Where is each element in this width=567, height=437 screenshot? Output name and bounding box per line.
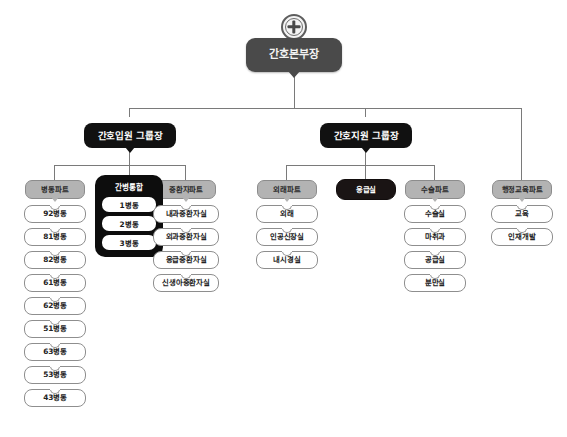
list-item-label: 51병동 xyxy=(43,325,67,333)
node-tail xyxy=(125,147,135,153)
list-item[interactable]: 마취과 xyxy=(404,228,466,246)
node-root-nursing-director[interactable]: 간호본부장 xyxy=(246,38,342,72)
list-item[interactable]: 분만실 xyxy=(404,274,466,292)
list-item[interactable]: 내시경실 xyxy=(256,251,318,269)
list-item-label: 62병동 xyxy=(43,302,67,310)
node-part-surgery-label: 수술파트 xyxy=(421,186,448,194)
list-item-label: 81병동 xyxy=(43,233,67,241)
list-item-label: 수술실 xyxy=(425,210,445,218)
list-item-label: 분만실 xyxy=(425,279,445,287)
list-item-label: 82병동 xyxy=(43,256,67,264)
node-part-integrated-care-label: 간병통합 xyxy=(115,181,142,192)
list-item-label: 응급중환자실 xyxy=(166,256,207,264)
node-tail xyxy=(518,197,526,202)
node-part-admin-education-label: 행정교육파트 xyxy=(502,186,543,194)
node-part-surgery[interactable]: 수술파트 xyxy=(405,180,465,199)
list-item[interactable]: 92병동 xyxy=(24,205,86,223)
list-item[interactable]: 내과중환자실 xyxy=(153,205,219,223)
node-group-support-label: 간호지원 그룹장 xyxy=(334,131,399,141)
list-item-label: 외과중환자실 xyxy=(166,233,207,241)
node-part-ward-label: 병동파트 xyxy=(41,186,68,194)
node-part-icu-label: 중환자파트 xyxy=(169,186,203,194)
list-item-label: 신생아중환자실 xyxy=(162,279,210,287)
list-item[interactable]: 61병동 xyxy=(24,274,86,292)
list-item-label: 외래 xyxy=(280,210,294,218)
list-item[interactable]: 51병동 xyxy=(24,320,86,338)
node-group-inpatient[interactable]: 간호입원 그룹장 xyxy=(84,123,176,148)
node-tail xyxy=(288,71,300,78)
list-item[interactable]: 3병동 xyxy=(102,235,156,250)
list-item-label: 공급실 xyxy=(425,256,445,264)
node-part-emergency-room[interactable]: 응급실 xyxy=(336,179,396,200)
list-item[interactable]: 교육 xyxy=(491,205,553,223)
node-tail xyxy=(182,197,190,202)
list-item-label: 92병동 xyxy=(43,210,67,218)
list-item[interactable]: 신생아중환자실 xyxy=(153,274,219,292)
org-chart: 간호본부장 간호입원 그룹장 간호지원 그룹장 병동파트 중환자파트 외래파트 … xyxy=(0,0,567,437)
list-item-label: 마취과 xyxy=(425,233,445,241)
list-item-label: 43병동 xyxy=(43,394,67,402)
list-item-label: 61병동 xyxy=(43,279,67,287)
node-part-ward[interactable]: 병동파트 xyxy=(25,180,85,199)
list-item[interactable]: 공급실 xyxy=(404,251,466,269)
list-item[interactable]: 82병동 xyxy=(24,251,86,269)
list-item-label: 63병동 xyxy=(43,348,67,356)
node-root-label: 간호본부장 xyxy=(269,49,318,61)
node-part-icu[interactable]: 중환자파트 xyxy=(156,180,216,199)
list-item-label: 인재개발 xyxy=(508,233,535,241)
node-tail xyxy=(431,197,439,202)
node-group-inpatient-label: 간호입원 그룹장 xyxy=(98,131,163,141)
list-item-label: 53병동 xyxy=(43,371,67,379)
list-item[interactable]: 53병동 xyxy=(24,366,86,384)
list-item[interactable]: 63병동 xyxy=(24,343,86,361)
list-item-label: 내과중환자실 xyxy=(166,210,207,218)
node-group-support[interactable]: 간호지원 그룹장 xyxy=(320,123,412,148)
list-item[interactable]: 43병동 xyxy=(24,389,86,407)
list-item[interactable]: 수술실 xyxy=(404,205,466,223)
list-item[interactable]: 1병동 xyxy=(102,197,156,212)
list-item-label: 내시경실 xyxy=(273,256,300,264)
list-item[interactable]: 81병동 xyxy=(24,228,86,246)
list-item[interactable]: 62병동 xyxy=(24,297,86,315)
node-tail xyxy=(51,197,59,202)
list-item-label: 교육 xyxy=(515,210,529,218)
node-part-emergency-room-label: 응급실 xyxy=(356,186,376,194)
list-item[interactable]: 인재개발 xyxy=(491,228,553,246)
node-part-admin-education[interactable]: 행정교육파트 xyxy=(492,180,552,199)
list-item[interactable]: 외과중환자실 xyxy=(153,228,219,246)
node-part-outpatient-label: 외래파트 xyxy=(273,186,300,194)
cross-bar-vertical xyxy=(292,21,295,34)
list-item[interactable]: 인공신장실 xyxy=(256,228,318,246)
node-tail xyxy=(361,147,371,153)
list-item[interactable]: 2병동 xyxy=(102,216,156,231)
node-part-outpatient[interactable]: 외래파트 xyxy=(257,180,317,199)
list-item[interactable]: 응급중환자실 xyxy=(153,251,219,269)
list-item-label: 인공신장실 xyxy=(270,233,304,241)
node-tail xyxy=(283,197,291,202)
list-item[interactable]: 외래 xyxy=(256,205,318,223)
medical-cross-icon xyxy=(281,14,307,40)
